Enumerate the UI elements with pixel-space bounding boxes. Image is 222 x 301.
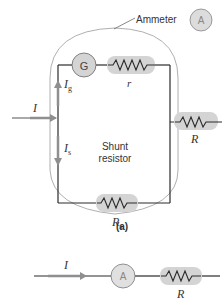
ammeter-label: Ammeter [136,14,177,25]
caption-a: (a) [116,221,128,232]
diagram-b-R-label: R [176,287,185,301]
resistor-r [107,56,155,74]
diagram-b-current-label: I [63,258,69,272]
ammeter-enclosure [50,28,178,214]
diagram-b-ammeter: A [111,264,135,288]
shunt-label-line1: Shunt [102,141,128,152]
diagram-b-resistor [160,267,202,285]
R-label: R [190,132,199,146]
svg-text:G: G [80,60,89,72]
r-label: r [127,77,132,89]
svg-text:A: A [198,15,205,26]
svg-text:A: A [120,271,127,282]
resistor-R [174,112,218,130]
current-I-arrow [12,114,57,122]
current-Is-arrow [54,136,62,166]
current-Ig-arrow [54,80,62,106]
shunt-label-line2: resistor [99,153,132,164]
ammeter-leader-line [114,18,135,29]
diagram-b-current-arrow [48,272,87,280]
current-Is-label: Is [63,141,71,157]
current-Ig-label: Ig [63,77,72,93]
circuit-diagram: Ammeter A G r R Shunt resistor Rs [0,0,222,301]
galvanometer: G [72,53,96,77]
current-I-label: I [32,101,38,115]
shunt-resistor [96,194,138,212]
ammeter-symbol-legend: A [190,9,212,31]
